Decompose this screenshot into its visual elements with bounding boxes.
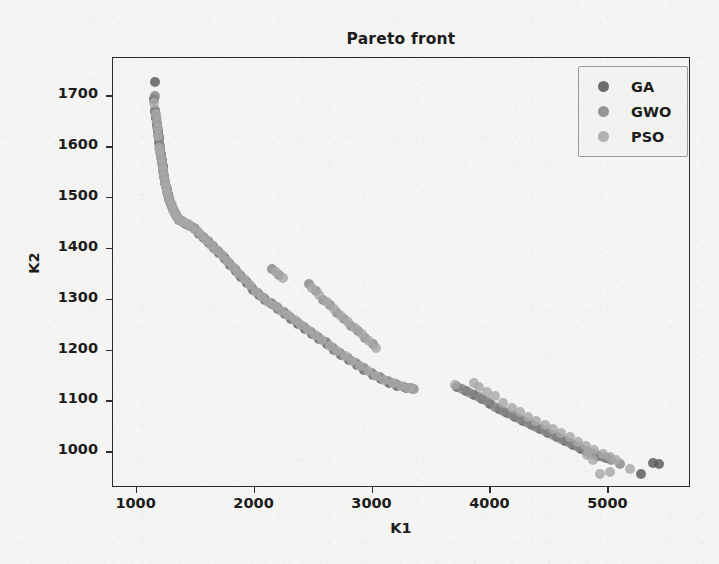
scatter-point (371, 343, 381, 353)
scatter-point (595, 469, 605, 479)
chart-title: Pareto front (112, 30, 690, 48)
y-tick-label: 1400 (0, 238, 98, 254)
y-tick-label: 1200 (0, 340, 98, 356)
legend-marker-icon (598, 81, 609, 92)
y-tick-label: 1300 (0, 289, 98, 305)
x-tick-mark (372, 487, 374, 493)
legend-item[interactable]: PSO (588, 124, 675, 149)
figure: Pareto front K2 K1 10002000300040005000 … (0, 0, 719, 564)
x-tick-mark (136, 487, 138, 493)
x-tick-label: 2000 (209, 495, 299, 511)
legend-item[interactable]: GA (588, 74, 675, 99)
x-tick-mark (254, 487, 256, 493)
x-tick-label: 4000 (444, 495, 534, 511)
scatter-point (409, 384, 419, 394)
y-tick-label: 1700 (0, 85, 98, 101)
y-tick-label: 1100 (0, 390, 98, 406)
legend-item[interactable]: GWO (588, 99, 675, 124)
scatter-point (605, 467, 615, 477)
x-tick-mark (607, 487, 609, 493)
legend-marker-icon (598, 106, 609, 117)
scatter-point (625, 464, 635, 474)
x-tick-mark (489, 487, 491, 493)
y-tick-label: 1500 (0, 187, 98, 203)
scatter-point (636, 469, 646, 479)
legend-label: GWO (631, 104, 675, 120)
x-tick-label: 5000 (562, 495, 652, 511)
x-tick-label: 1000 (91, 495, 181, 511)
y-tick-label: 1600 (0, 136, 98, 152)
x-tick-label: 3000 (327, 495, 417, 511)
legend: GAGWOPSO (578, 66, 688, 157)
scatter-point (150, 77, 160, 87)
legend-label: GA (631, 79, 675, 95)
scatter-point (588, 455, 598, 465)
scatter-point (278, 273, 288, 283)
x-axis-label: K1 (112, 520, 690, 536)
scatter-point (654, 459, 664, 469)
y-tick-label: 1000 (0, 441, 98, 457)
scatter-point (611, 455, 621, 465)
legend-marker-icon (598, 131, 609, 142)
legend-label: PSO (631, 129, 675, 145)
